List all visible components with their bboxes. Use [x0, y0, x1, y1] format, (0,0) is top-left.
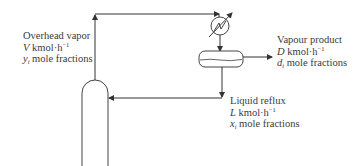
- vapour-product-label: Vapour product D kmol·h−1 di mole fracti…: [277, 34, 347, 69]
- distillation-column: [82, 80, 108, 166]
- overhead-vapor-flow: V kmol·h−1: [23, 42, 92, 54]
- overhead-vapor-title: Overhead vapor: [23, 30, 92, 42]
- liquid-reflux-composition: xi mole fractions: [230, 118, 299, 130]
- overhead-vapor-composition: yi mole fractions: [23, 53, 92, 65]
- condenser: [209, 13, 232, 37]
- liquid-reflux-flow: L kmol·h−1: [230, 107, 299, 119]
- process-diagram: [0, 0, 355, 166]
- vapour-product-flow: D kmol·h−1: [277, 46, 347, 58]
- reflux-drum: [199, 51, 243, 67]
- liquid-reflux-title: Liquid reflux: [230, 95, 299, 107]
- vapour-product-composition: di mole fractions: [277, 57, 347, 69]
- vapour-product-title: Vapour product: [277, 34, 347, 46]
- overhead-vapor-label: Overhead vapor V kmol·h−1 yi mole fracti…: [23, 30, 92, 65]
- liquid-reflux-label: Liquid reflux L kmol·h−1 xi mole fractio…: [230, 95, 299, 130]
